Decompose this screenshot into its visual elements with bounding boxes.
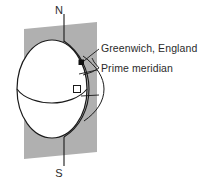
right-angle-marker <box>74 86 81 93</box>
greenwich-england-label: Greenwich, England <box>101 42 197 54</box>
north-pole-label: N <box>55 4 63 16</box>
south-pole-label: S <box>55 167 62 179</box>
diagram-canvas: N S Greenwich, England Prime meridian <box>0 0 206 181</box>
prime-meridian-label: Prime meridian <box>101 62 173 74</box>
geography-diagram-figure: N S Greenwich, England Prime meridian <box>0 0 206 181</box>
greenwich-marker-dot <box>79 60 85 66</box>
